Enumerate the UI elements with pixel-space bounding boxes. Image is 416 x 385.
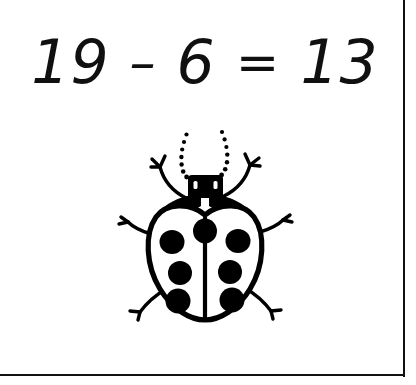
equation-result: 13: [300, 32, 378, 92]
equation-line: 19 – 6 = 13: [30, 26, 380, 98]
middle-leg-left-icon: [119, 217, 151, 234]
antenna-right-icon: [214, 130, 230, 181]
spot-left-lower: [166, 289, 191, 314]
spot-right-lower: [220, 288, 245, 313]
spot-left-upper: [160, 230, 185, 254]
equation-minus-operator: –: [128, 36, 159, 88]
front-leg-left-icon: [151, 156, 186, 198]
spot-center-top: [193, 219, 217, 244]
spot-right-middle: [218, 260, 242, 284]
spot-right-upper: [226, 229, 251, 253]
equation-equals-sign: =: [234, 36, 283, 88]
front-leg-right-icon: [224, 154, 260, 196]
spot-left-middle: [168, 261, 192, 285]
ladybug-illustration: [108, 118, 308, 333]
middle-leg-right-icon: [260, 215, 292, 232]
worksheet-card: 19 – 6 = 13: [0, 0, 416, 385]
right-border-rule: [403, 0, 405, 377]
equation-left-operand: 19: [31, 32, 109, 92]
bottom-border-rule: [0, 374, 405, 376]
equation-right-operand: 6: [177, 32, 216, 92]
